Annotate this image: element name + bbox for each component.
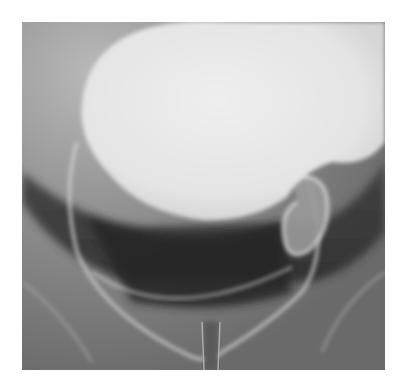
radiograph-image — [22, 22, 385, 370]
radiograph-drawing — [22, 22, 385, 370]
